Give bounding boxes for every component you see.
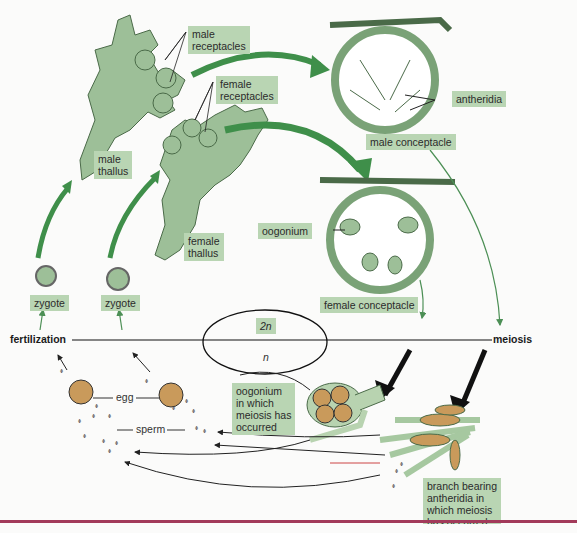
female-conceptacle: [320, 180, 455, 290]
egg-left: [69, 380, 93, 404]
green-arrow-zygote-right: [110, 178, 155, 258]
antheridia-label: antheridia: [452, 91, 506, 107]
zygote-left-cell: [36, 266, 56, 286]
zygote-left-label: zygote: [30, 295, 69, 311]
female-conceptacle-label: female conceptacle: [320, 297, 418, 313]
oogonium-label: oogonium: [258, 223, 312, 239]
svg-text:ᶲ: ᶲ: [392, 483, 395, 492]
svg-text:ᶲ: ᶲ: [195, 425, 198, 434]
male-receptacles-label: male receptacles: [188, 26, 250, 54]
svg-text:ᶲ: ᶲ: [78, 418, 81, 427]
male-conceptacle: [330, 20, 450, 130]
fucus-life-cycle-diagram: ᶲᶲᶲ ᶲᶲᶲ ᶲᶲᶲ ᶲᶲᶲ ᶲᶲᶲ ᶲᶲᶲ: [0, 0, 577, 533]
green-arrow-zygote-left: [38, 188, 68, 258]
svg-text:ᶲ: ᶲ: [400, 461, 403, 470]
svg-text:ᶲ: ᶲ: [395, 468, 398, 477]
svg-text:ᶲ: ᶲ: [102, 438, 105, 447]
fertilization-label: fertilization: [10, 333, 66, 345]
svg-text:ᶲ: ᶲ: [185, 398, 188, 407]
egg-label: egg: [116, 391, 134, 403]
svg-text:ᶲ: ᶲ: [172, 405, 175, 414]
green-arrow-male: [192, 55, 320, 75]
svg-text:ᶲ: ᶲ: [203, 428, 206, 437]
svg-text:ᶲ: ᶲ: [60, 368, 63, 377]
svg-text:ᶲ: ᶲ: [145, 378, 148, 387]
haploid-label: n: [263, 351, 269, 363]
svg-text:ᶲ: ᶲ: [115, 440, 118, 449]
meiosis-label: meiosis: [493, 333, 532, 345]
egg-right: [159, 383, 183, 407]
bottom-rule: [0, 520, 577, 523]
female-receptacles-label: female receptacles: [216, 76, 278, 104]
svg-text:ᶲ: ᶲ: [192, 408, 195, 417]
zygote-right-label: zygote: [101, 295, 140, 311]
svg-text:ᶲ: ᶲ: [83, 433, 86, 442]
svg-text:ᶲ: ᶲ: [108, 448, 111, 457]
svg-text:ᶲ: ᶲ: [92, 413, 95, 422]
zygote-right-cell: [107, 268, 129, 290]
svg-text:ᶲ: ᶲ: [108, 413, 111, 422]
branch-antheridia-label: branch bearing antheridia in which meios…: [423, 478, 501, 524]
female-thallus-label: female thallus: [184, 233, 224, 261]
antheridia-branch-drawing: [380, 405, 480, 475]
male-conceptacle-label: male conceptacle: [366, 134, 456, 150]
male-thallus-label: male thallus: [94, 151, 132, 179]
diploid-label: 2n: [256, 318, 276, 334]
svg-text:ᶲ: ᶲ: [95, 403, 98, 412]
oogonium-meiosis-label: oogonium in which meiosis has occurred: [232, 383, 295, 435]
sperm-label: sperm: [136, 423, 165, 435]
oogonium-meiosis-drawing: [307, 383, 385, 440]
